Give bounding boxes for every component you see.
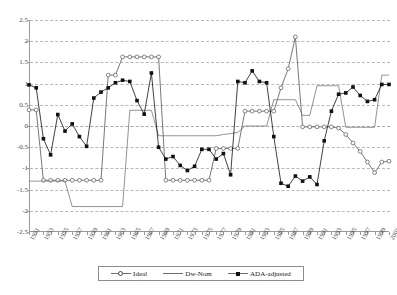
data-point <box>214 157 218 161</box>
data-point <box>49 178 53 182</box>
data-point <box>49 153 53 157</box>
data-point <box>150 71 154 75</box>
data-point <box>380 160 384 164</box>
data-point <box>34 86 38 90</box>
data-point <box>358 94 362 98</box>
data-point <box>387 159 391 163</box>
legend-label-ada-adjusted: ADA-adjusted <box>250 270 291 278</box>
open-circle-marker-icon <box>111 270 131 278</box>
data-point <box>193 164 197 168</box>
data-point <box>315 125 319 129</box>
data-point <box>337 126 341 130</box>
y-axis-tick-label: 0 <box>2 123 28 130</box>
data-point <box>56 113 60 117</box>
data-point <box>286 67 290 71</box>
data-point <box>200 148 204 152</box>
data-point <box>236 80 240 84</box>
data-point <box>229 173 233 177</box>
data-point <box>99 90 103 94</box>
data-point <box>56 178 60 182</box>
data-point <box>373 171 377 175</box>
data-point <box>27 83 31 87</box>
y-axis-tick-label: -2 <box>2 208 28 215</box>
data-point <box>279 181 283 185</box>
data-point <box>294 174 298 178</box>
y-axis-tick-label: 1.5 <box>2 59 28 66</box>
legend-item-dw-nom: Dw-Nom <box>163 270 211 278</box>
data-point <box>301 179 305 183</box>
data-point <box>78 135 82 139</box>
data-point <box>135 99 139 103</box>
data-point <box>322 139 326 143</box>
y-axis-tick-label: 1 <box>2 81 28 88</box>
data-point <box>294 35 298 39</box>
data-point <box>142 55 146 59</box>
data-point <box>70 122 74 126</box>
data-point <box>106 86 110 90</box>
data-point <box>78 178 82 182</box>
data-point <box>193 178 197 182</box>
data-point <box>229 147 233 151</box>
data-point <box>171 155 175 159</box>
y-axis-tick-label: 0.5 <box>2 102 28 109</box>
data-point <box>200 178 204 182</box>
data-point <box>128 80 132 84</box>
plain-line-marker-icon <box>163 270 183 278</box>
data-point <box>243 81 247 85</box>
legend-item-ideal: Ideal <box>111 270 147 278</box>
data-point <box>207 148 211 152</box>
x-axis: 1951195319551957195919611963196519671969… <box>29 232 389 242</box>
data-point <box>114 73 118 77</box>
data-point <box>150 55 154 59</box>
data-point <box>330 125 334 129</box>
y-axis-tick-label: 2.5 <box>2 17 28 24</box>
data-point <box>106 73 110 77</box>
series-ada-adjusted <box>27 69 391 188</box>
data-point <box>330 109 334 113</box>
data-point <box>351 85 355 89</box>
legend-label-dw-nom: Dw-Nom <box>185 270 211 278</box>
data-point <box>42 178 46 182</box>
caption-text <box>6 286 186 293</box>
data-point <box>63 129 67 133</box>
y-axis-tick-label: -0.5 <box>2 144 28 151</box>
data-point <box>351 141 355 145</box>
y-axis-tick-label: -2.5 <box>2 229 28 236</box>
data-point <box>366 100 370 104</box>
data-point <box>279 86 283 90</box>
data-point <box>366 160 370 164</box>
data-point <box>42 137 46 141</box>
data-point <box>301 125 305 129</box>
data-point <box>186 178 190 182</box>
y-axis-tick-label: -1.5 <box>2 187 28 194</box>
y-axis-tick-label: -1 <box>2 165 28 172</box>
data-point <box>322 125 326 129</box>
data-point <box>222 147 226 151</box>
filled-square-marker-icon <box>228 270 248 278</box>
data-point <box>157 55 161 59</box>
data-point <box>135 55 139 59</box>
data-point <box>164 157 168 161</box>
data-point <box>250 69 254 73</box>
data-point <box>178 178 182 182</box>
data-point <box>27 108 31 112</box>
data-point <box>157 145 161 149</box>
data-point <box>265 109 269 113</box>
data-point <box>128 55 132 59</box>
chart-container: 2.521.510.50-0.5-1-1.5-2-2.5 19511953195… <box>0 0 397 295</box>
data-point <box>315 183 319 187</box>
legend-label-ideal: Ideal <box>133 270 147 278</box>
data-point <box>344 91 348 95</box>
data-point <box>243 109 247 113</box>
data-point <box>387 83 391 87</box>
data-point <box>85 178 89 182</box>
x-axis-tick-label: 2001 <box>389 227 397 242</box>
data-point <box>258 80 262 84</box>
data-point <box>258 109 262 113</box>
data-point <box>380 83 384 87</box>
y-axis: 2.521.510.50-0.5-1-1.5-2-2.5 <box>0 20 28 232</box>
data-point <box>308 125 312 129</box>
data-point <box>207 178 211 182</box>
data-point <box>214 147 218 151</box>
data-point <box>164 178 168 182</box>
